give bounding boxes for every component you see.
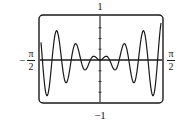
x-max-label: π 2	[167, 49, 175, 72]
x-min-sign: −	[19, 54, 25, 66]
x-min-label: π 2	[27, 49, 35, 72]
x-min-numerator: π	[28, 49, 33, 59]
viewing-window-frame	[39, 15, 163, 103]
x-min-denominator: 2	[29, 62, 34, 72]
x-max-denominator: 2	[169, 62, 174, 72]
y-max-label: 1	[95, 1, 105, 12]
x-max-numerator: π	[168, 49, 173, 59]
y-min-label: −1	[90, 110, 110, 121]
